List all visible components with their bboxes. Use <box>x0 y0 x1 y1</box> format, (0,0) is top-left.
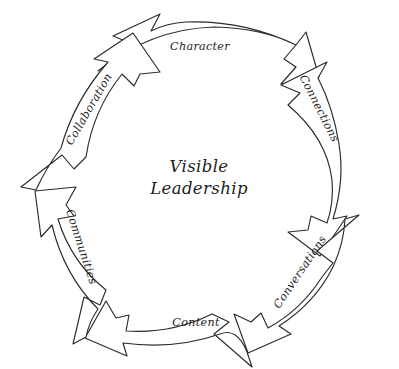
visible-leadership-diagram: Character Connections Conversations Cont… <box>0 0 399 369</box>
diagram-canvas: Character Connections Conversations Cont… <box>0 0 399 369</box>
segment-label-conversations: Conversations <box>271 233 329 311</box>
segment-label-content: Content <box>172 316 220 329</box>
segment-label-character: Character <box>170 40 230 53</box>
segment-arrow-content <box>85 301 252 367</box>
center-label-line2: Leadership <box>149 179 248 198</box>
center-label-line1: Visible <box>169 157 228 176</box>
